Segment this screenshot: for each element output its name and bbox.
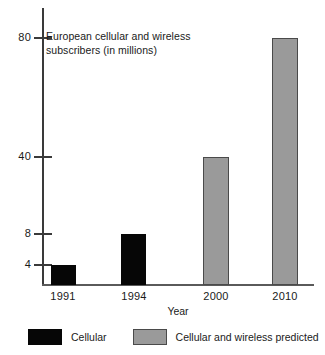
y-tick-label-4: 4 (0, 259, 31, 270)
bar-2010 (272, 38, 298, 285)
legend-swatch-predicted (133, 329, 167, 345)
chart-title-line-2: subscribers (in millions) (46, 44, 236, 58)
legend-swatch-cellular (28, 329, 62, 345)
x-tick-label-2000: 2000 (186, 290, 246, 302)
y-tick-mark-8 (34, 233, 52, 235)
y-axis-line (42, 8, 44, 286)
legend-label-cellular: Cellular (71, 331, 107, 343)
bar-chart: 80 40 8 4 European cellular and wireless… (0, 0, 325, 355)
x-tick-label-1994: 1994 (104, 290, 164, 302)
x-axis-title: Year (42, 305, 314, 317)
bar-1991 (51, 265, 76, 285)
bar-1994 (121, 234, 146, 285)
x-tick-label-1991: 1991 (33, 290, 93, 302)
y-tick-label-40: 40 (0, 151, 31, 162)
legend-label-predicted: Cellular and wireless predicted (176, 331, 319, 343)
legend-entry-predicted: Cellular and wireless predicted (133, 329, 319, 345)
chart-title: European cellular and wireless subscribe… (46, 30, 236, 57)
y-tick-mark-40 (34, 156, 52, 158)
bar-2000 (203, 157, 229, 285)
y-tick-label-80: 80 (0, 32, 31, 43)
chart-legend: Cellular Cellular and wireless predicted (28, 329, 319, 345)
y-tick-label-8: 8 (0, 228, 31, 239)
legend-entry-cellular: Cellular (28, 329, 107, 345)
y-tick-mark-4 (34, 264, 52, 266)
x-tick-label-2010: 2010 (255, 290, 315, 302)
chart-title-line-1: European cellular and wireless (46, 30, 236, 44)
